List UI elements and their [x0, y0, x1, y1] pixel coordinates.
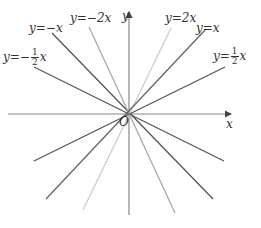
fraction: 12 — [231, 47, 239, 66]
line-y=-2x — [89, 27, 175, 213]
y-axis-label: y — [122, 10, 129, 22]
label-y-neg-2x: y=−2x — [70, 12, 111, 24]
label-y-x: y=x — [196, 22, 220, 34]
line-y=-x — [52, 33, 213, 199]
fraction: 12 — [31, 48, 39, 67]
label-y-half-x: y=12x — [213, 47, 246, 66]
label-y-2x: y=2x — [165, 12, 196, 24]
coordinate-diagram: y x O y=−x y=−2x y=2x y=x y=−12x y=12x — [0, 0, 261, 228]
x-axis-label: x — [226, 118, 233, 130]
label-y-neg-x: y=−x — [29, 22, 63, 34]
label-y-neg-half-x: y=−12x — [3, 48, 46, 67]
origin-label: O — [119, 116, 129, 128]
